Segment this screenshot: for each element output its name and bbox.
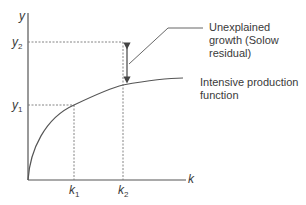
y2-label: y2 bbox=[11, 35, 23, 51]
residual-leader-line bbox=[129, 28, 203, 64]
residual-annotation: Unexplained growth (Solow residual) bbox=[209, 21, 299, 60]
k2-label: k2 bbox=[118, 183, 129, 199]
y-axis-label: y bbox=[18, 9, 26, 23]
y1-label: y1 bbox=[11, 98, 23, 114]
production-function-curve bbox=[28, 78, 183, 180]
k1-label: k1 bbox=[69, 183, 80, 199]
x-axis-label: k bbox=[188, 172, 195, 186]
curve-annotation: Intensive production function bbox=[200, 76, 304, 102]
